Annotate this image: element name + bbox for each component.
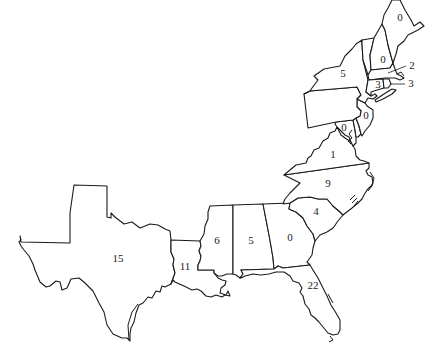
label-connecticut: 3 [375,78,381,90]
label-new-jersey: 0 [363,109,369,121]
label-alabama: 5 [248,234,254,246]
label-mississippi: 6 [214,234,220,246]
label-virginia: 1 [330,148,336,160]
label-georgia: 0 [287,231,293,243]
label-florida: 22 [308,279,319,291]
us-states-map: 0 0 2 3 3 5 0 0 1 9 4 0 5 6 11 15 22 [0,0,438,360]
label-south-carolina: 4 [313,205,319,217]
label-maryland: 0 [341,121,347,133]
label-new-hampshire: 0 [380,53,386,65]
state-rhode-island[interactable] [383,79,391,88]
label-massachusetts: 2 [409,59,415,71]
label-maine: 0 [397,11,403,23]
long-island [375,89,396,102]
label-north-carolina: 9 [325,177,331,189]
state-texas[interactable] [19,185,175,341]
label-new-york: 5 [340,67,346,79]
state-florida[interactable] [240,265,340,335]
label-texas: 15 [113,252,125,264]
label-rhode-island: 3 [408,77,414,89]
label-louisiana: 11 [180,260,191,272]
